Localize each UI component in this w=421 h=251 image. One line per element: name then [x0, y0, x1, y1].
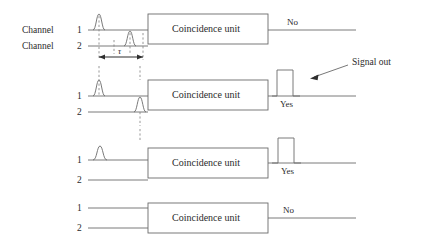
row-2-channel-2-pulse	[134, 97, 146, 112]
row-1-coincidence-unit-label: Coincidence unit	[172, 24, 240, 34]
row-1-channel-1-word: Channel	[22, 26, 54, 36]
row-1-verdict-label: No	[287, 18, 298, 27]
row-2-verdict-label: Yes	[280, 100, 293, 109]
row-1-graphics	[88, 14, 356, 60]
signal-out-label: Signal out	[352, 58, 391, 68]
tau-arrowhead-right	[137, 54, 143, 59]
tau-label: τ	[118, 47, 121, 56]
row-1-channel-1-number: 1	[77, 26, 82, 36]
row-3-channel-2-number: 2	[77, 176, 82, 186]
row-2-output-pulse	[272, 70, 300, 96]
row-2-channel-2-number: 2	[77, 108, 82, 118]
row-3-channel-1-number: 1	[77, 156, 82, 166]
row-1-channel-2-number: 2	[77, 42, 82, 52]
row-1-channel-2-word: Channel	[22, 42, 54, 52]
coincidence-unit-diagram: Channel 1 Channel 2 Coincidence unit No …	[0, 0, 421, 251]
signal-out-leader	[310, 65, 348, 80]
row-4-coincidence-unit-label: Coincidence unit	[172, 213, 240, 223]
row-4-channel-1-number: 1	[77, 204, 82, 214]
row-4-verdict-label: No	[283, 206, 294, 215]
row-3-coincidence-unit-label: Coincidence unit	[172, 158, 240, 168]
tau-arrowhead-left	[99, 54, 105, 59]
row-3-verdict-label: Yes	[281, 167, 294, 176]
row-3-graphics	[88, 129, 356, 180]
row-4-channel-2-number: 2	[77, 224, 82, 234]
row-3-output-pulse	[272, 138, 301, 163]
row-2-coincidence-unit-label: Coincidence unit	[172, 90, 240, 100]
row-3-channel-1-pulse	[93, 146, 107, 160]
row-2-channel-1-number: 1	[77, 92, 82, 102]
signal-out-arrowhead	[310, 75, 319, 81]
